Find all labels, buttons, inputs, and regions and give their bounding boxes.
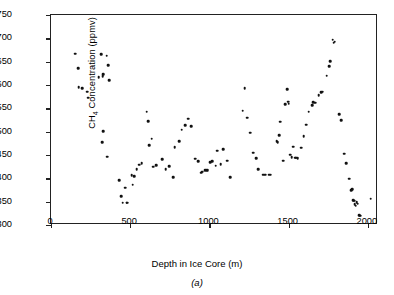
data-point xyxy=(325,74,328,77)
plot-area: CH4 Concentration (ppmv) xyxy=(50,14,377,224)
data-point xyxy=(252,151,255,154)
data-point xyxy=(145,110,148,113)
data-point xyxy=(286,88,289,91)
data-point xyxy=(190,125,193,128)
data-point xyxy=(124,186,127,189)
data-point xyxy=(106,156,109,159)
data-point xyxy=(287,102,290,105)
data-point xyxy=(226,159,229,162)
data-point xyxy=(214,164,217,167)
data-point xyxy=(131,184,134,187)
data-point xyxy=(249,131,252,134)
data-point xyxy=(197,160,200,163)
y-tick xyxy=(46,202,51,203)
data-point xyxy=(329,60,332,63)
data-point xyxy=(172,176,175,179)
data-point xyxy=(81,87,84,90)
y-tick-label: 600 xyxy=(0,79,12,89)
data-point xyxy=(107,64,110,67)
data-point xyxy=(311,104,314,107)
data-point xyxy=(148,144,151,147)
data-point xyxy=(229,176,232,179)
y-tick xyxy=(46,15,51,16)
data-point xyxy=(102,73,105,76)
data-point xyxy=(292,145,295,148)
data-point xyxy=(101,141,104,144)
data-point xyxy=(317,94,320,97)
x-axis-label: Depth in Ice Core (m) xyxy=(0,258,394,269)
data-point xyxy=(211,160,214,163)
data-point xyxy=(348,178,351,181)
data-point xyxy=(150,137,153,140)
data-point xyxy=(269,173,272,176)
data-point xyxy=(100,53,103,56)
data-point xyxy=(284,103,287,106)
y-tick-label: 450 xyxy=(0,149,12,159)
data-point xyxy=(219,163,222,166)
data-point xyxy=(241,109,244,112)
data-point xyxy=(187,117,190,120)
data-point xyxy=(307,110,310,113)
data-point xyxy=(340,119,343,122)
ch4-ice-core-scatter-figure: CH4 Concentration (ppmv) 300350400450500… xyxy=(0,0,394,295)
data-point xyxy=(355,205,358,208)
data-point xyxy=(194,157,197,160)
data-point xyxy=(314,101,317,104)
data-point xyxy=(118,179,121,182)
data-point xyxy=(222,148,225,151)
y-tick xyxy=(46,178,51,179)
data-point xyxy=(246,116,249,119)
data-point xyxy=(279,121,282,124)
data-point xyxy=(105,54,108,57)
data-point xyxy=(184,124,187,127)
data-point xyxy=(77,67,80,70)
scatter-points-layer xyxy=(51,15,376,223)
x-tick-label: 1000 xyxy=(185,216,231,226)
data-point xyxy=(161,158,164,161)
y-tick xyxy=(46,155,51,156)
y-tick xyxy=(46,38,51,39)
x-tick-label: 1500 xyxy=(265,216,311,226)
data-point xyxy=(356,202,359,205)
y-tick-label: 550 xyxy=(0,102,12,112)
x-tick-label: 500 xyxy=(106,216,152,226)
y-axis-label: CH4 Concentration (ppmv) xyxy=(87,0,99,153)
data-point xyxy=(345,162,348,165)
y-tick-label: 500 xyxy=(0,126,12,136)
data-point xyxy=(121,201,124,204)
y-axis-label-suffix: Concentration (ppmv) xyxy=(87,17,97,111)
data-point xyxy=(302,135,305,138)
data-point xyxy=(120,195,123,198)
y-tick xyxy=(46,108,51,109)
data-point xyxy=(328,65,331,68)
data-point xyxy=(257,168,260,171)
y-axis-label-subscript: 4 xyxy=(92,111,99,115)
data-point xyxy=(74,52,77,55)
y-tick-label: 700 xyxy=(0,32,12,42)
data-point xyxy=(333,40,336,43)
data-point xyxy=(351,188,354,191)
x-tick-label: 0 xyxy=(27,216,73,226)
data-point xyxy=(343,152,346,155)
y-tick xyxy=(46,132,51,133)
data-point xyxy=(322,90,325,93)
data-point xyxy=(173,146,176,149)
data-point xyxy=(300,146,303,149)
data-point xyxy=(255,157,258,160)
data-point xyxy=(243,87,246,90)
data-point xyxy=(133,175,136,178)
data-point xyxy=(135,168,138,171)
y-axis-label-prefix: CH xyxy=(87,115,97,129)
data-point xyxy=(147,120,150,123)
data-point xyxy=(277,141,280,144)
y-tick-label: 650 xyxy=(0,56,12,66)
data-point xyxy=(140,162,143,165)
data-point xyxy=(296,157,299,160)
figure-caption: (a) xyxy=(0,277,394,288)
x-tick-label: 2000 xyxy=(344,216,390,226)
y-tick xyxy=(46,85,51,86)
data-point xyxy=(126,201,129,204)
y-tick-label: 400 xyxy=(0,172,12,182)
data-point xyxy=(369,198,372,201)
data-point xyxy=(216,150,219,153)
